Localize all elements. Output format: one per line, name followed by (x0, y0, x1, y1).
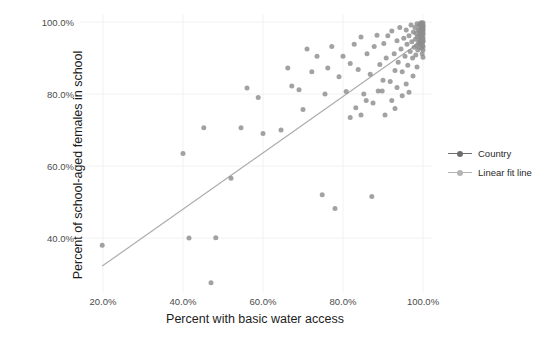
data-point (344, 89, 349, 94)
data-point (385, 33, 390, 38)
data-point (389, 29, 394, 34)
data-point (256, 95, 261, 100)
data-point (329, 44, 334, 49)
data-point (407, 90, 412, 95)
gridlines (80, 14, 432, 292)
data-point (348, 115, 353, 120)
data-point (421, 26, 426, 31)
data-point (361, 92, 366, 97)
data-point (400, 93, 405, 98)
data-point (384, 56, 389, 61)
data-point (392, 51, 397, 56)
data-point (245, 85, 250, 90)
x-axis-tick-800: 80.0% (330, 296, 357, 307)
data-point (408, 49, 413, 54)
data-point (413, 53, 418, 58)
data-point (415, 65, 420, 70)
y-axis-tick-1000: 100.0% (20, 17, 74, 28)
data-point (383, 112, 388, 117)
y-axis-tick-600: 60.0% (20, 161, 74, 172)
data-point (407, 33, 412, 38)
data-point (381, 41, 386, 46)
data-point (356, 67, 361, 72)
data-point (396, 60, 401, 65)
y-axis-title: Percent of school-aged females in school (71, 25, 85, 305)
legend-item-country[interactable]: Country (448, 144, 548, 163)
x-axis-tick-1000: 100.0% (407, 296, 439, 307)
data-point (395, 85, 400, 90)
data-point (405, 63, 410, 68)
data-point (209, 280, 214, 285)
data-point (371, 101, 376, 106)
data-point (315, 54, 320, 59)
data-point (393, 68, 398, 73)
data-point (421, 55, 426, 60)
data-point (305, 47, 310, 52)
data-point (301, 107, 306, 112)
data-point (401, 36, 406, 41)
data-point (404, 81, 409, 86)
data-point (395, 38, 400, 43)
data-point (341, 54, 346, 59)
data-point (368, 72, 373, 77)
scatter-chart-figure: 40.0%60.0%80.0%100.0% 20.0%40.0%60.0%80.… (0, 0, 552, 339)
data-point (389, 98, 394, 103)
data-point (377, 62, 382, 67)
legend-label-country: Country (478, 148, 511, 159)
data-point (239, 125, 244, 130)
data-point (359, 35, 364, 40)
data-point (261, 131, 266, 136)
data-point (187, 236, 192, 241)
data-point (325, 66, 330, 71)
data-point (397, 25, 402, 30)
data-point (289, 84, 294, 89)
data-point (279, 128, 284, 133)
data-point (421, 30, 426, 35)
data-point (369, 194, 374, 199)
data-point (181, 151, 186, 156)
chart-legend: Country Linear fit line (448, 144, 548, 182)
legend-label-linear-fit-line: Linear fit line (478, 167, 532, 178)
x-axis-tick-400: 40.0% (170, 296, 197, 307)
data-point (376, 89, 381, 94)
data-point (297, 87, 302, 92)
y-axis-tick-800: 80.0% (20, 89, 74, 100)
x-axis-title: Percent with basic water access (85, 312, 425, 326)
data-point (309, 69, 314, 74)
data-point (388, 79, 393, 84)
data-point (421, 44, 426, 49)
data-point (393, 106, 398, 111)
data-point (100, 243, 105, 248)
x-axis-tick-200: 20.0% (90, 296, 117, 307)
y-axis-tick-400: 40.0% (20, 233, 74, 244)
data-point (421, 38, 426, 43)
data-point (359, 112, 364, 117)
legend-marker-fit-line-icon (448, 168, 472, 178)
data-point (364, 98, 369, 103)
data-point (320, 192, 325, 197)
data-point (213, 235, 218, 240)
data-point (411, 74, 416, 79)
data-point (337, 74, 342, 79)
data-point (405, 42, 410, 47)
data-point (323, 92, 328, 97)
data-point (400, 69, 405, 74)
data-point (372, 44, 377, 49)
data-point (381, 78, 386, 83)
legend-item-linear-fit-line[interactable]: Linear fit line (448, 163, 548, 182)
data-point (229, 176, 234, 181)
data-point (201, 125, 206, 130)
legend-marker-country-icon (448, 149, 472, 159)
data-point (285, 66, 290, 71)
data-point (348, 61, 353, 66)
x-axis-tick-600: 60.0% (250, 296, 277, 307)
data-point (403, 54, 408, 59)
data-point (352, 42, 357, 47)
data-point (404, 27, 409, 32)
data-point (375, 33, 380, 38)
data-point (365, 51, 370, 56)
data-point (353, 105, 358, 110)
data-point (333, 206, 338, 211)
data-point (399, 47, 404, 52)
